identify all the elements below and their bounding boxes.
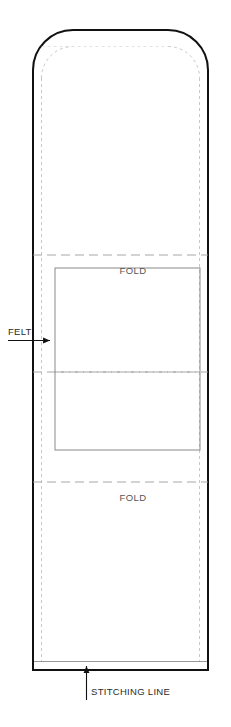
pattern-diagram-canvas: FOLD FOLD FELT STITCHING LINE: [0, 0, 231, 727]
felt-label: FELT: [8, 326, 32, 337]
fold-label-lower: FOLD: [120, 492, 147, 503]
pattern-drawing: FOLD FOLD FELT STITCHING LINE: [0, 0, 231, 727]
stitching-line-label: STITCHING LINE: [91, 686, 170, 697]
main-body-panel-outline: [33, 30, 208, 670]
fold-label-upper: FOLD: [120, 265, 147, 276]
